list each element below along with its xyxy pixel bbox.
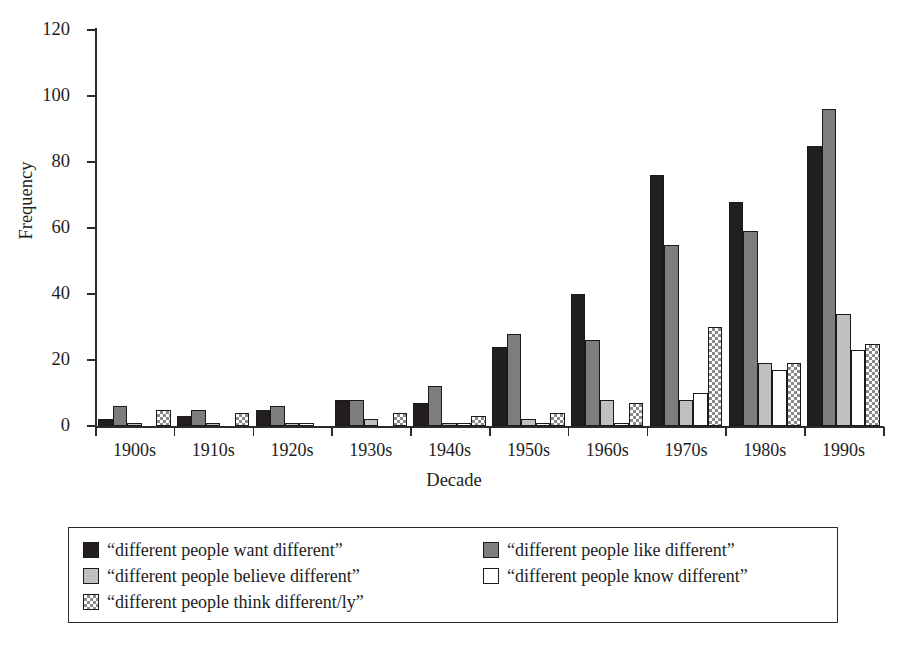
bar <box>471 416 486 426</box>
x-tick-label: 1940s <box>405 440 495 460</box>
bar <box>156 410 171 427</box>
bar <box>708 327 723 426</box>
bar <box>457 423 472 426</box>
x-tick-mark <box>174 427 176 436</box>
bar <box>442 423 457 426</box>
x-tick-mark <box>883 427 885 436</box>
bar <box>585 340 600 426</box>
bar <box>507 334 522 426</box>
bar <box>758 363 773 426</box>
legend-column-left: “different people want different”“differ… <box>83 537 483 615</box>
bar <box>787 363 802 426</box>
x-tick-mark <box>489 427 491 436</box>
x-tick-mark <box>804 427 806 436</box>
bar <box>349 400 364 426</box>
bar <box>270 406 285 426</box>
legend-item[interactable]: “different people know different” <box>483 563 835 589</box>
bar <box>536 423 551 426</box>
bar <box>679 400 694 426</box>
legend-item[interactable]: “different people believe different” <box>83 563 483 589</box>
bar <box>364 419 379 426</box>
bar <box>807 146 822 427</box>
bar <box>600 400 615 426</box>
bar <box>743 231 758 426</box>
bar <box>191 410 206 427</box>
x-tick-mark <box>331 427 333 436</box>
x-tick-mark <box>725 427 727 436</box>
y-tick-label: 120 <box>22 20 70 39</box>
x-tick-label: 1960s <box>562 440 652 460</box>
bar <box>113 406 128 426</box>
x-tick-mark <box>568 427 570 436</box>
y-axis-title: Frequency <box>16 106 37 296</box>
bar <box>822 109 837 426</box>
x-tick-mark <box>95 427 97 436</box>
legend-swatch-icon <box>83 594 99 610</box>
bar <box>729 202 744 426</box>
bar <box>285 423 300 426</box>
legend: “different people want different”“differ… <box>68 527 838 623</box>
legend-swatch-icon <box>83 568 99 584</box>
bar <box>664 245 679 427</box>
y-tick-label: 0 <box>22 416 70 435</box>
bar <box>413 403 428 426</box>
bar <box>98 419 113 426</box>
y-tick-label: 20 <box>22 350 70 369</box>
bar <box>299 423 314 426</box>
bar <box>335 400 350 426</box>
bar <box>206 423 221 426</box>
x-axis-title: Decade <box>0 470 908 491</box>
legend-swatch-icon <box>83 542 99 558</box>
x-tick-label: 1980s <box>720 440 810 460</box>
legend-label: “different people like different” <box>507 540 735 560</box>
x-tick-label: 1900s <box>89 440 179 460</box>
x-tick-mark <box>253 427 255 436</box>
y-tick-label: 100 <box>22 86 70 105</box>
legend-item[interactable]: “different people like different” <box>483 537 835 563</box>
y-tick-label: 60 <box>22 218 70 237</box>
x-tick-label: 1950s <box>483 440 573 460</box>
bar <box>235 413 250 426</box>
x-tick-label: 1930s <box>326 440 416 460</box>
bar <box>629 403 644 426</box>
legend-item[interactable]: “different people think different/ly” <box>83 589 483 615</box>
bar <box>865 344 880 427</box>
bar <box>772 370 787 426</box>
bar <box>614 423 629 426</box>
legend-label: “different people know different” <box>507 566 748 586</box>
bar <box>550 413 565 426</box>
x-tick-label: 1990s <box>799 440 889 460</box>
bar <box>851 350 866 426</box>
legend-label: “different people think different/ly” <box>107 592 364 612</box>
x-tick-mark <box>647 427 649 436</box>
bar <box>428 386 443 426</box>
bar <box>836 314 851 426</box>
y-tick-label: 40 <box>22 284 70 303</box>
x-tick-label: 1920s <box>247 440 337 460</box>
legend-label: “different people believe different” <box>107 566 360 586</box>
x-tick-label: 1970s <box>641 440 731 460</box>
bar <box>127 423 142 426</box>
legend-swatch-icon <box>483 542 499 558</box>
bar <box>177 416 192 426</box>
bar <box>571 294 586 426</box>
plot-area <box>95 30 883 426</box>
x-tick-mark <box>410 427 412 436</box>
bar <box>393 413 408 426</box>
y-tick-label: 80 <box>22 152 70 171</box>
bar <box>650 175 665 426</box>
bar <box>256 410 271 427</box>
legend-label: “different people want different” <box>107 540 343 560</box>
legend-column-right: “different people like different”“differ… <box>483 537 835 589</box>
bar <box>492 347 507 426</box>
legend-item[interactable]: “different people want different” <box>83 537 483 563</box>
bar <box>693 393 708 426</box>
bar-chart: Frequency 020406080100120 1900s1910s1920… <box>0 0 908 653</box>
x-tick-label: 1910s <box>168 440 258 460</box>
legend-swatch-icon <box>483 568 499 584</box>
bar <box>521 419 536 426</box>
